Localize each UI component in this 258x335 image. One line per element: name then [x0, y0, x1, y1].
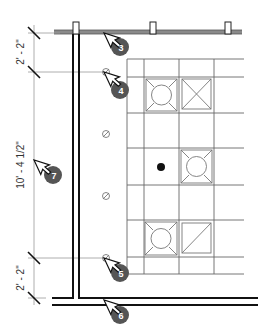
- callout-number: 7: [51, 171, 56, 181]
- dim-middle-label: 10' - 4 1/2": [15, 141, 26, 189]
- light-fixture-round: [181, 150, 212, 183]
- callout-5: 5: [104, 253, 129, 282]
- callout-number: 3: [118, 43, 123, 53]
- light-fixture-round: [145, 222, 177, 255]
- callout-4: 4: [104, 67, 129, 99]
- dim-bottom-label: 2' - 2": [15, 265, 26, 291]
- wall-sconce-symbols: [103, 69, 110, 262]
- floor-plan-drawing: 2' - 2" 10' - 4 1/2" 2' - 2": [0, 0, 258, 335]
- light-fixture-round: [146, 79, 177, 111]
- top-beam: [54, 30, 242, 34]
- callout-number: 6: [118, 311, 123, 321]
- dim-top-label: 2' - 2": [15, 39, 26, 65]
- callout-number: 5: [118, 269, 123, 279]
- callout-7: 7: [34, 155, 62, 184]
- walls: [52, 34, 258, 305]
- diffuser-x: [182, 79, 211, 109]
- callout-number: 4: [118, 86, 123, 96]
- downlight-dot: [157, 163, 165, 171]
- diffuser-diagonal: [182, 223, 211, 253]
- callout-6: 6: [104, 295, 129, 324]
